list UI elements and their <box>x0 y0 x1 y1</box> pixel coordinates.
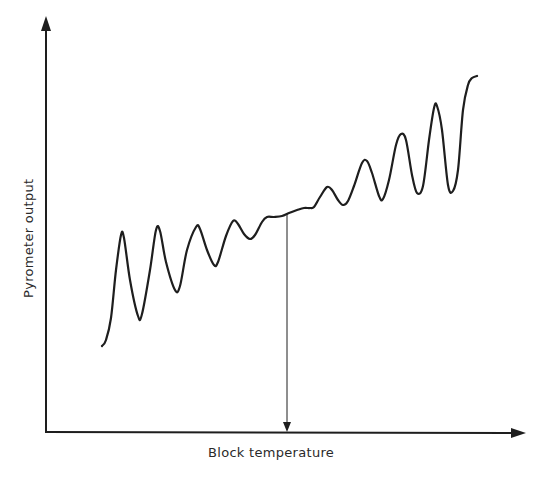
x-axis-label: Block temperature <box>208 445 334 460</box>
pyrometer-diagram: Block temperature Pyrometer output <box>0 0 546 477</box>
marker-arrowhead-icon <box>283 422 291 432</box>
y-axis-label: Pyrometer output <box>21 179 36 298</box>
x-axis <box>45 432 515 433</box>
x-axis-arrowhead-icon <box>511 428 526 438</box>
pyrometer-output-curve <box>102 76 477 346</box>
y-axis-arrowhead-icon <box>41 16 51 31</box>
